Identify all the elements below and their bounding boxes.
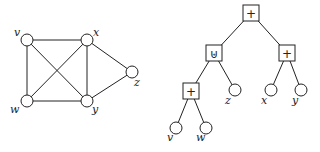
tree-op-symbol-root: + bbox=[246, 7, 256, 21]
graph-node-x bbox=[81, 34, 93, 46]
tree-op-symbol-plus_right: + bbox=[282, 47, 292, 61]
tree-leaf-label-tw: w bbox=[196, 131, 206, 144]
tree-leaf-label-ty: y bbox=[291, 94, 299, 107]
graph-label-z: z bbox=[133, 76, 140, 89]
tree-leaf-label-tx: x bbox=[261, 94, 268, 107]
tree-op-symbol-union: ⊎ bbox=[210, 47, 219, 61]
graph-label-y: y bbox=[91, 103, 99, 116]
graph-edge-y-z bbox=[87, 72, 132, 101]
graph-node-w bbox=[21, 95, 33, 107]
diagram-canvas: vxzwy+⊎++zxyvw bbox=[0, 0, 320, 152]
graph-edge-x-z bbox=[87, 40, 132, 72]
tree-leaf-label-tz: z bbox=[224, 94, 231, 107]
graph-node-v bbox=[21, 34, 33, 46]
graph-label-x: x bbox=[93, 26, 100, 39]
graph-label-w: w bbox=[10, 103, 20, 116]
tree-op-symbol-plus_left: + bbox=[186, 85, 196, 99]
graph-label-v: v bbox=[14, 26, 21, 39]
tree-leaf-label-tv: v bbox=[167, 131, 174, 144]
tree-leaf-tz bbox=[229, 84, 241, 96]
